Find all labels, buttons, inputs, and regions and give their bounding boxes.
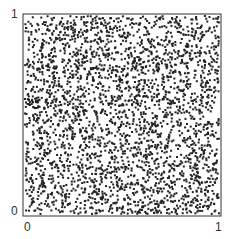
plot-area — [0, 0, 230, 239]
x-tick-label-max: 1 — [215, 221, 222, 233]
y-tick-label-max: 1 — [11, 8, 18, 20]
scatter-chart: 1 0 0 1 — [0, 0, 230, 239]
scatter-points — [24, 15, 220, 215]
y-tick-label-min: 0 — [11, 205, 18, 217]
x-tick-label-min: 0 — [24, 221, 31, 233]
